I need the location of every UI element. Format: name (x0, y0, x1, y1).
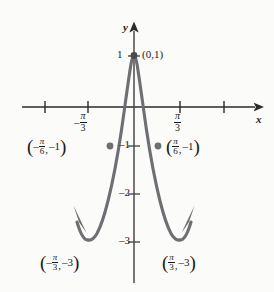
paren-close: ) (194, 137, 200, 156)
right-mid-y-value: –1 (182, 141, 194, 152)
y-axis-label: y (123, 22, 128, 33)
point-label-right-min: (π3,–3) (162, 254, 196, 274)
paren-close: ) (159, 48, 163, 60)
left-mid-inner: –π6 (33, 138, 45, 158)
paren-close: ) (60, 137, 66, 156)
right-min-y-value: –3 (178, 257, 190, 268)
left-mid-y-value: –1 (48, 141, 60, 152)
paren-close: ) (73, 253, 79, 272)
fraction-pi-over-3: π3 (80, 111, 87, 133)
point-left-mid (107, 143, 114, 150)
y-tick-label-1: 1 (117, 49, 123, 60)
x-axis-label: x (256, 114, 262, 125)
x-axis (22, 101, 255, 113)
y-tick-label-neg2: –2 (119, 187, 130, 198)
paren-close: ) (190, 253, 196, 272)
y-tick-label-neg3: –3 (119, 235, 130, 246)
point-label-right-mid: (π6,–1) (166, 138, 200, 158)
point-peak (131, 52, 138, 59)
point-label-peak: (0,1) (142, 49, 163, 60)
left-min-y-value: –3 (61, 257, 73, 268)
y-tick-label-neg1: –1 (119, 139, 130, 150)
graph-figure: y x 1 –1 –2 –3 –π3 π3 (0,1) (–π6,–1) (π6… (0, 0, 274, 292)
point-right-mid (155, 143, 162, 150)
point-label-left-min: (–π3,–3) (40, 254, 79, 274)
x-tick-label-pi-3: π3 (174, 112, 181, 134)
x-tick-label-neg-pi-3: –π3 (74, 112, 87, 134)
point-label-left-mid: (–π6,–1) (27, 138, 66, 158)
fraction-pi-over-3: π3 (174, 111, 181, 133)
left-min-inner: –π3 (46, 254, 58, 274)
